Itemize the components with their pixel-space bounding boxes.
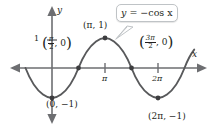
point-pi-over-2 bbox=[76, 66, 81, 71]
callout-tail bbox=[116, 26, 134, 40]
x-tick-label-2pi: 2π bbox=[152, 75, 162, 83]
x-axis-right-arrow bbox=[197, 63, 207, 72]
point-label-rest: , 0 bbox=[156, 38, 167, 47]
fraction-denominator: 2 bbox=[48, 43, 55, 51]
y-axis-top-arrow bbox=[47, 6, 56, 16]
paren-close: ) bbox=[167, 33, 173, 51]
x-tick-label-pi: π bbox=[102, 75, 107, 83]
point-label-3pi-over-2: (3π2, 0) bbox=[139, 35, 173, 51]
y-tick-label-1: 1 bbox=[34, 35, 39, 43]
fraction-denominator: 2 bbox=[145, 42, 156, 50]
equation-callout: y = −cos x bbox=[116, 4, 178, 22]
paren-close: ) bbox=[66, 34, 72, 52]
fraction-pi-over-2: π2 bbox=[48, 36, 55, 52]
point-label-pi-over-2: (π2, 0) bbox=[42, 36, 72, 52]
point-label-pi-1: (π, 1) bbox=[83, 21, 107, 30]
point-pi-1 bbox=[103, 36, 108, 41]
fraction-numerator: 3π bbox=[145, 35, 156, 42]
callout-equation-body: = −cos x bbox=[126, 7, 172, 18]
fraction-numerator: π bbox=[48, 36, 55, 43]
y-axis-label: y bbox=[57, 6, 62, 15]
point-3pi-over-2 bbox=[129, 66, 134, 71]
y-axis-bottom-arrow bbox=[47, 114, 56, 124]
x-axis-left-arrow bbox=[10, 63, 20, 72]
point-label-0-neg1: (0, −1) bbox=[46, 100, 78, 109]
point-label-rest: , 0 bbox=[54, 39, 65, 48]
point-2pi-neg1 bbox=[156, 96, 161, 101]
point-label-2pi-neg1: (2π, −1) bbox=[148, 112, 186, 121]
x-axis bbox=[10, 63, 207, 72]
x-axis-label: x bbox=[192, 50, 197, 59]
fraction-3pi-over-2: 3π2 bbox=[145, 35, 156, 51]
